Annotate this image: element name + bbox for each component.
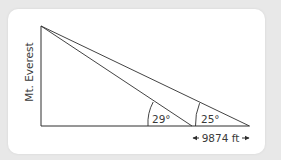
angle-arc-25 [195, 103, 199, 126]
angle-label-29: 29° [152, 113, 171, 125]
sight-line-25 [41, 26, 250, 126]
sight-line-29 [41, 26, 192, 126]
left-arrow-icon [193, 136, 198, 140]
triangle-diagram: 29° 25° Mt. Everest 9874 ft [0, 0, 281, 160]
distance-label: 9874 ft [202, 132, 240, 144]
diagram-page: 29° 25° Mt. Everest 9874 ft [0, 0, 281, 160]
angle-label-25: 25° [201, 113, 220, 125]
mountain-label: Mt. Everest [23, 42, 35, 101]
distance-dimension: 9874 ft [193, 132, 250, 144]
right-arrow-icon [245, 136, 250, 140]
